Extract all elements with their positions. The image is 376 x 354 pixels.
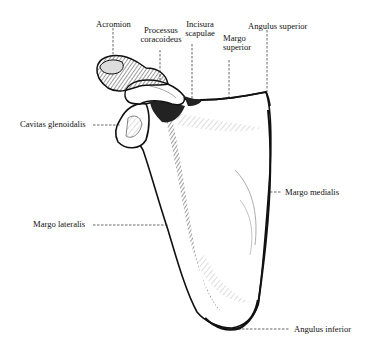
label-cavitas-glenoidalis: Cavitas glenoidalis	[20, 120, 86, 129]
label-line: scapulae	[185, 29, 215, 38]
label-incisura-scapulae: Incisura scapulae	[185, 20, 215, 38]
label-processus-coracoideus: Processus coracoideus	[137, 26, 185, 44]
label-line: coracoideus	[137, 35, 185, 44]
label-line: superior	[223, 43, 251, 52]
label-margo-lateralis: Margo lateralis	[33, 220, 85, 229]
label-margo-superior: Margo superior	[223, 34, 251, 52]
label-angulus-superior: Angulus superior	[248, 22, 307, 31]
label-angulus-inferior: Angulus inferior	[294, 325, 351, 334]
label-acromion: Acromion	[96, 20, 131, 29]
label-margo-medialis: Margo medialis	[285, 188, 339, 197]
scapula-illustration	[0, 0, 376, 354]
scapula-diagram: Acromion Processus coracoideus Incisura …	[0, 0, 376, 354]
